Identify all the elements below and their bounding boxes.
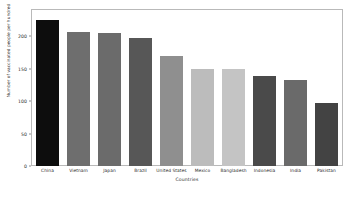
x-axis-tick-labels: ChinaVietnamJapanBrazilUnited StatesMexi… — [32, 168, 342, 173]
x-axis-tick-label: Japan — [94, 168, 125, 173]
x-axis-tick-label: Brazil — [125, 168, 156, 173]
bar[interactable] — [222, 69, 244, 167]
bar-slot — [187, 10, 218, 166]
y-axis-tick-labels: 050100150200 — [0, 0, 31, 197]
y-axis-tick-label: 50 — [21, 131, 27, 136]
bar-slot — [249, 10, 280, 166]
bar-slot — [311, 10, 342, 166]
bar-slot — [63, 10, 94, 166]
y-axis-tick-label: 100 — [18, 99, 27, 104]
bar[interactable] — [315, 103, 337, 166]
x-axis-tick-label: United States — [156, 168, 187, 173]
bar[interactable] — [191, 69, 213, 167]
x-axis-tick-label: India — [280, 168, 311, 173]
x-axis-tick-label: Vietnam — [63, 168, 94, 173]
x-axis-tick-label: Indonesia — [249, 168, 280, 173]
y-axis-tick-label: 150 — [18, 66, 27, 71]
bar[interactable] — [284, 80, 306, 166]
bar[interactable] — [253, 76, 275, 166]
x-axis-tick-label: China — [32, 168, 63, 173]
bar[interactable] — [129, 38, 151, 166]
bar-slot — [32, 10, 63, 166]
bar-slot — [218, 10, 249, 166]
bar-slot — [125, 10, 156, 166]
x-axis-title: Countries — [32, 177, 342, 182]
bar-slot — [280, 10, 311, 166]
bar[interactable] — [36, 20, 58, 166]
bar[interactable] — [98, 33, 120, 166]
y-axis-tick-label: 200 — [18, 34, 27, 39]
x-axis-tick-label: Mexico — [187, 168, 218, 173]
bar-chart-figure: Number of vaccinated people per hundred … — [0, 0, 351, 197]
y-axis-tick-label: 0 — [24, 164, 27, 169]
x-axis-tick-label: Bangladesh — [218, 168, 249, 173]
bar-slot — [94, 10, 125, 166]
bar[interactable] — [160, 56, 182, 166]
bars-container — [32, 10, 342, 166]
x-axis-tick-label: Pakistan — [311, 168, 342, 173]
bar-slot — [156, 10, 187, 166]
bar[interactable] — [67, 32, 89, 166]
